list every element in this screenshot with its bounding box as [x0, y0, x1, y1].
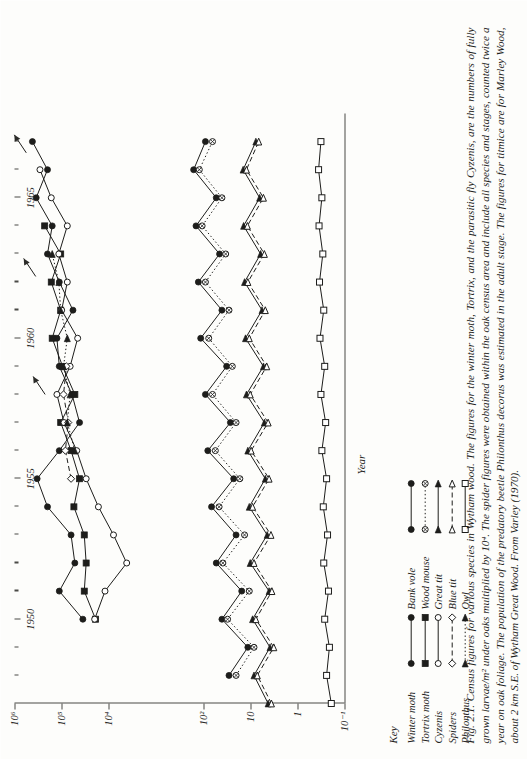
y-tick	[61, 703, 62, 709]
data-point-open-circle	[64, 279, 70, 285]
key-row: Great tit	[431, 473, 445, 609]
figure-caption: Fig. 2.1. Census figures for various spe…	[462, 27, 521, 743]
key-symbol	[404, 473, 418, 535]
data-point-open-square	[315, 166, 321, 172]
key-symbol	[445, 607, 459, 669]
data-point-crossed-circle	[209, 138, 215, 144]
data-point-open-square	[322, 419, 328, 425]
data-point-open-circle	[55, 250, 61, 256]
data-point-open-circle	[435, 614, 441, 620]
off-scale-arrow	[14, 134, 26, 152]
y-tick	[297, 703, 298, 709]
series-owl	[315, 138, 334, 706]
key-label: Bank vole	[405, 535, 416, 609]
key-label: Winter moth	[405, 669, 416, 743]
key-label: Great tit	[432, 535, 443, 609]
key-symbol	[445, 473, 459, 535]
data-point-filled-square	[81, 588, 87, 594]
key-marker-open-circle	[431, 607, 445, 669]
data-point-filled-circle	[71, 560, 77, 566]
data-point-filled-circle	[44, 503, 50, 509]
key-label: Blue tit	[446, 535, 457, 609]
data-point-filled-circle	[202, 391, 208, 397]
key-symbol	[418, 473, 432, 535]
data-point-open-square	[326, 644, 332, 650]
data-point-open-square	[325, 588, 331, 594]
data-point-filled-circle	[213, 560, 219, 566]
key-symbol	[431, 473, 445, 535]
data-point-filled-circle	[408, 614, 414, 620]
key-row: Tortrix moth	[418, 607, 432, 743]
data-point-filled-circle	[49, 222, 55, 228]
data-point-filled-circle	[56, 447, 62, 453]
data-point-filled-square	[421, 614, 427, 620]
data-point-filled-triangle	[435, 526, 441, 533]
series-line	[193, 141, 247, 675]
data-point-open-square	[323, 672, 329, 678]
data-point-filled-circle	[193, 222, 199, 228]
data-point-open-circle	[64, 222, 70, 228]
key-marker-open-diamond	[445, 607, 459, 669]
data-point-filled-circle	[33, 194, 39, 200]
y-tick-label: 10⁻¹	[338, 711, 350, 731]
scanned-figure-page: 10⁶10⁵10⁴10²10110⁻¹ 1950195519601965 Num…	[0, 0, 527, 759]
key-marker-crossed-circle	[418, 473, 432, 535]
key-row: Blue tit	[445, 473, 459, 609]
data-point-open-square	[320, 307, 326, 313]
key-title: Key	[386, 726, 398, 743]
data-point-open-square	[320, 560, 326, 566]
data-point-filled-circle	[408, 660, 414, 666]
data-point-filled-circle	[69, 307, 75, 313]
data-point-filled-circle	[29, 138, 35, 144]
key-label: Wood mouse	[419, 535, 430, 609]
data-point-filled-circle	[197, 335, 203, 341]
data-point-filled-square	[41, 222, 47, 228]
y-tick	[344, 703, 345, 709]
data-point-crossed-circle	[199, 222, 205, 228]
data-point-filled-circle	[204, 447, 210, 453]
data-point-open-diamond	[61, 447, 68, 454]
data-point-open-circle	[83, 475, 89, 481]
data-point-filled-circle	[408, 480, 414, 486]
data-point-open-square	[318, 447, 324, 453]
data-point-crossed-circle	[205, 335, 211, 341]
data-point-crossed-circle	[233, 672, 239, 678]
key-label: Spiders	[446, 669, 457, 743]
x-axis-title: Year	[354, 454, 366, 474]
data-point-open-circle	[95, 503, 101, 509]
data-point-filled-square	[81, 531, 87, 537]
data-point-open-diamond	[67, 475, 74, 482]
data-point-open-diamond	[448, 613, 455, 620]
data-point-open-circle	[91, 616, 97, 622]
data-point-open-square	[323, 475, 329, 481]
key-label: Tortrix moth	[419, 669, 430, 743]
data-point-open-square	[324, 531, 330, 537]
key-column-vertebrates: Bank voleWood mouseGreat titBlue titOwl	[404, 473, 472, 609]
data-point-filled-circle	[202, 138, 208, 144]
data-point-filled-triangle	[435, 480, 441, 487]
data-point-crossed-circle	[229, 363, 235, 369]
data-point-crossed-circle	[233, 419, 239, 425]
key-row: Bank vole	[404, 473, 418, 609]
y-tick-label: 10⁵	[55, 711, 66, 725]
y-tick-label: 10⁴	[103, 711, 114, 725]
data-point-open-square	[317, 138, 323, 144]
data-point-open-diamond	[59, 390, 66, 397]
y-tick-label: 10²	[197, 711, 208, 725]
series-line	[39, 169, 126, 619]
data-point-crossed-circle	[218, 194, 224, 200]
data-point-open-circle	[110, 531, 116, 537]
data-series-layer	[14, 113, 344, 703]
key-row: Cyzenis	[431, 607, 445, 743]
key-symbol	[431, 607, 445, 669]
data-point-crossed-circle	[241, 531, 247, 537]
y-tick	[203, 703, 204, 709]
data-point-open-square	[320, 503, 326, 509]
series-bank-vole	[190, 138, 250, 678]
data-point-crossed-circle	[250, 644, 256, 650]
key-marker-filled-circle	[404, 473, 418, 535]
data-point-crossed-circle	[236, 475, 242, 481]
data-point-open-circle	[74, 335, 80, 341]
data-point-open-circle	[53, 391, 59, 397]
data-point-crossed-circle	[196, 166, 202, 172]
